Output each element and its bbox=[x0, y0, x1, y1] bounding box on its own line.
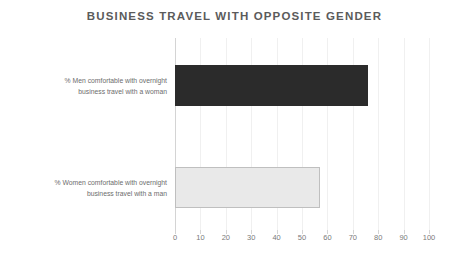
plot-area bbox=[175, 38, 429, 230]
x-tick-label: 10 bbox=[196, 233, 204, 242]
chart-title: BUSINESS TRAVEL WITH OPPOSITE GENDER bbox=[0, 10, 469, 22]
bar-chart: BUSINESS TRAVEL WITH OPPOSITE GENDER % M… bbox=[0, 0, 469, 264]
gridline bbox=[378, 38, 379, 230]
category-label-line: business travel with a woman bbox=[17, 86, 167, 97]
category-label-line: % Women comfortable with overnight bbox=[17, 177, 167, 188]
x-tick-label: 90 bbox=[399, 233, 407, 242]
category-label: % Women comfortable with overnightbusine… bbox=[17, 177, 167, 199]
bar bbox=[175, 167, 320, 208]
x-tick-label: 40 bbox=[272, 233, 280, 242]
bar bbox=[175, 65, 368, 106]
gridline bbox=[429, 38, 430, 230]
category-label-line: % Men comfortable with overnight bbox=[17, 75, 167, 86]
x-tick-label: 20 bbox=[222, 233, 230, 242]
category-label-line: business travel with a man bbox=[17, 188, 167, 199]
x-tick-label: 60 bbox=[323, 233, 331, 242]
category-label: % Men comfortable with overnightbusiness… bbox=[17, 75, 167, 97]
x-tick-label: 70 bbox=[349, 233, 357, 242]
x-tick-label: 50 bbox=[298, 233, 306, 242]
x-axis-tick-labels: 0102030405060708090100 bbox=[175, 233, 429, 247]
x-tick-label: 100 bbox=[423, 233, 436, 242]
x-tick-label: 80 bbox=[374, 233, 382, 242]
x-tick-label: 0 bbox=[173, 233, 177, 242]
x-tick-label: 30 bbox=[247, 233, 255, 242]
gridline bbox=[404, 38, 405, 230]
